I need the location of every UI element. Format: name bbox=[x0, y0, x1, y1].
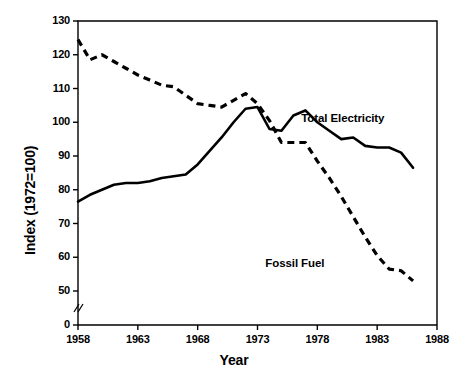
y-tick-label: 110 bbox=[34, 82, 70, 94]
line-chart-plot bbox=[0, 0, 468, 382]
y-tick-label: 80 bbox=[34, 183, 70, 195]
series-annotation-2: Fossil Fuel bbox=[265, 257, 324, 269]
x-tick-label: 1983 bbox=[352, 333, 402, 345]
x-tick-label: 1968 bbox=[173, 333, 223, 345]
y-tick-label: 120 bbox=[34, 48, 70, 60]
y-tick-label: 100 bbox=[34, 115, 70, 127]
x-tick-label: 1988 bbox=[412, 333, 462, 345]
y-tick-label: 90 bbox=[34, 149, 70, 161]
x-axis-title: Year bbox=[0, 352, 468, 368]
y-tick-label: 130 bbox=[34, 14, 70, 26]
x-tick-label: 1973 bbox=[233, 333, 283, 345]
chart-series bbox=[78, 40, 413, 281]
y-tick-label: 70 bbox=[34, 217, 70, 229]
chart-axes bbox=[73, 21, 437, 330]
y-axis-title: Index (1972=100) bbox=[22, 146, 38, 255]
x-tick-label: 1958 bbox=[53, 333, 103, 345]
x-tick-label: 1978 bbox=[292, 333, 342, 345]
y-tick-label: 50 bbox=[34, 284, 70, 296]
series-line-2 bbox=[78, 40, 413, 281]
series-annotation-1: Total Electricity bbox=[301, 112, 384, 124]
x-tick-label: 1963 bbox=[113, 333, 163, 345]
chart-figure: Index (1972=100) Year 506070809010011012… bbox=[0, 0, 468, 382]
y-axis-break-label: 0 bbox=[34, 318, 70, 330]
y-tick-label: 60 bbox=[34, 250, 70, 262]
